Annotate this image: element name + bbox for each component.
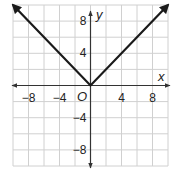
x-tick-label: −8: [22, 91, 36, 105]
x-tick-label: 4: [118, 91, 125, 105]
y-tick-label: 4: [80, 46, 87, 60]
y-tick-label: 8: [80, 14, 87, 28]
y-tick-label: −8: [73, 143, 87, 157]
axes: [12, 11, 170, 168]
x-tick-label: 8: [149, 91, 156, 105]
x-axis-label: x: [157, 69, 165, 84]
origin-label: O: [77, 89, 87, 104]
coordinate-plane: −8−44884−4−8 x y O: [0, 0, 175, 174]
y-axis-label: y: [95, 7, 104, 22]
x-tick-label: −4: [53, 91, 67, 105]
y-tick-label: −4: [73, 111, 87, 125]
